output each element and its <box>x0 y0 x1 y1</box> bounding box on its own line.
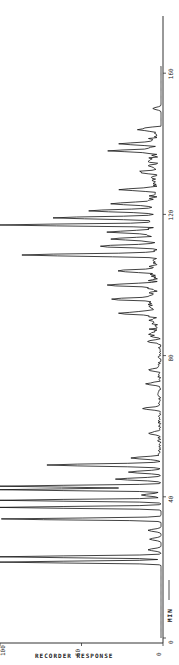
time-tick-label: 40 <box>167 495 174 503</box>
response-tick-label: 100 <box>0 645 6 656</box>
time-axis-title: MIN <box>166 608 173 622</box>
time-tick-label: 0 <box>167 640 174 644</box>
time-tick-label: 160 <box>167 68 174 79</box>
response-axis-title: RECORDER RESPONSE <box>35 652 113 659</box>
time-unit-label: MIN <box>166 580 173 622</box>
time-ticks: 04080120160 <box>163 68 174 644</box>
time-tick-label: 80 <box>167 354 174 362</box>
chromatogram-trace <box>0 66 161 638</box>
time-tick-label: 120 <box>167 209 174 220</box>
response-tick-label: 0 <box>155 652 162 656</box>
chromatogram-chart: 04080120160 050100 MIN RECORDER RESPONSE <box>0 0 179 665</box>
